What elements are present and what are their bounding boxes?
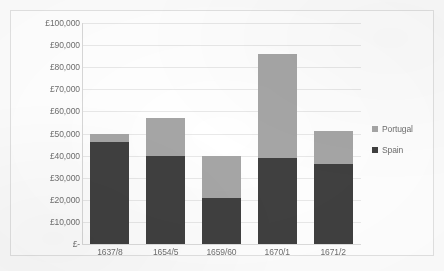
bar-group[interactable] bbox=[314, 131, 353, 244]
y-axis-tick-label: £- bbox=[18, 239, 80, 249]
bar-segment-portugal[interactable] bbox=[202, 156, 241, 198]
y-axis-tick-label: £20,000 bbox=[18, 195, 80, 205]
bar-group[interactable] bbox=[202, 156, 241, 244]
legend-label: Portugal bbox=[382, 124, 413, 134]
x-axis-labels: 1637/81654/51659/601670/11671/2 bbox=[82, 247, 361, 263]
bar-segment-portugal[interactable] bbox=[146, 118, 185, 156]
y-axis-tick-label: £80,000 bbox=[18, 62, 80, 72]
legend-label: Spain bbox=[382, 145, 403, 155]
y-axis-tick-label: £90,000 bbox=[18, 40, 80, 50]
chart-page: £-£10,000£20,000£30,000£40,000£50,000£60… bbox=[0, 0, 444, 271]
bar-series-container bbox=[82, 23, 361, 244]
bar-group[interactable] bbox=[146, 118, 185, 244]
bar-segment-spain[interactable] bbox=[146, 156, 185, 244]
bar-segment-portugal[interactable] bbox=[314, 131, 353, 164]
legend-swatch-icon bbox=[372, 126, 378, 132]
legend-item-portugal[interactable]: Portugal bbox=[372, 121, 432, 137]
gridline bbox=[82, 244, 361, 245]
bar-segment-spain[interactable] bbox=[314, 164, 353, 244]
x-axis-tick-label: 1670/1 bbox=[249, 247, 305, 257]
legend-item-spain[interactable]: Spain bbox=[372, 142, 432, 158]
bar-segment-spain[interactable] bbox=[90, 142, 129, 244]
y-axis-tick-label: £50,000 bbox=[18, 129, 80, 139]
y-axis-tick-label: £70,000 bbox=[18, 84, 80, 94]
bar-segment-portugal[interactable] bbox=[258, 54, 297, 158]
bar-group[interactable] bbox=[258, 54, 297, 244]
x-axis-tick-label: 1659/60 bbox=[194, 247, 250, 257]
legend-swatch-icon bbox=[372, 147, 378, 153]
bar-segment-spain[interactable] bbox=[202, 198, 241, 244]
y-axis-labels: £-£10,000£20,000£30,000£40,000£50,000£60… bbox=[14, 23, 80, 244]
chart-legend: PortugalSpain bbox=[372, 121, 432, 163]
y-axis-tick-label: £30,000 bbox=[18, 173, 80, 183]
bar-group[interactable] bbox=[90, 134, 129, 244]
x-axis-tick-label: 1637/8 bbox=[82, 247, 138, 257]
x-axis-tick-label: 1654/5 bbox=[138, 247, 194, 257]
chart-frame: £-£10,000£20,000£30,000£40,000£50,000£60… bbox=[10, 10, 434, 256]
y-axis-tick-label: £40,000 bbox=[18, 151, 80, 161]
bar-segment-spain[interactable] bbox=[258, 158, 297, 244]
y-axis-tick-label: £100,000 bbox=[18, 18, 80, 28]
y-axis-tick-label: £10,000 bbox=[18, 217, 80, 227]
x-axis-tick-label: 1671/2 bbox=[305, 247, 361, 257]
y-axis-tick-label: £60,000 bbox=[18, 106, 80, 116]
bar-segment-portugal[interactable] bbox=[90, 134, 129, 143]
